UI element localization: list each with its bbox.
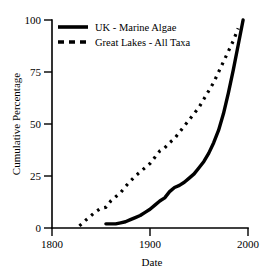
y-tick-label-25: 25	[30, 170, 42, 182]
x-axis-title: Date	[142, 256, 163, 268]
legend-label-uk-marine-algae: UK - Marine Algae	[95, 22, 177, 33]
x-tick-label-2000: 2000	[237, 238, 260, 250]
y-tick-label-50: 50	[30, 118, 42, 130]
chart-figure: 100 75 50 25 0 1800 1900 2000 Date Cumul…	[0, 0, 274, 274]
y-tick-label-0: 0	[36, 222, 42, 234]
legend-label-great-lakes-all-taxa: Great Lakes - All Taxa	[95, 37, 191, 48]
y-axis-title: Cumulative Percentage	[10, 73, 22, 175]
x-tick-label-1900: 1900	[139, 238, 162, 250]
series-great-lakes-all-taxa	[79, 28, 238, 226]
y-tick-label-75: 75	[30, 66, 42, 78]
chart-legend: UK - Marine Algae Great Lakes - All Taxa	[58, 22, 191, 48]
y-tick-label-100: 100	[25, 14, 42, 26]
cumulative-percentage-line-chart: 100 75 50 25 0 1800 1900 2000 Date Cumul…	[0, 0, 274, 274]
x-tick-label-1800: 1800	[41, 238, 64, 250]
series-uk-marine-algae	[106, 20, 243, 224]
